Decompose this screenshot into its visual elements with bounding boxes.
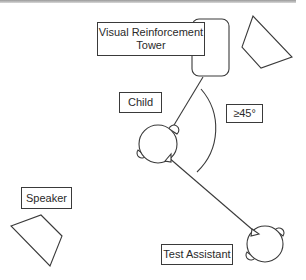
assistant-head-icon — [246, 226, 284, 262]
child-label: Child — [119, 92, 162, 113]
child-to-assistant-line — [168, 157, 254, 231]
left-speaker-shape — [11, 215, 62, 266]
child-head-icon — [137, 125, 179, 163]
test-assistant-label: Test Assistant — [161, 244, 233, 265]
angle-label: ≥45° — [226, 104, 263, 123]
right-speaker-shape — [242, 16, 292, 68]
tower-label: Visual Reinforcement Tower — [97, 22, 205, 56]
child-to-tower-line — [171, 77, 203, 130]
speaker-label: Speaker — [21, 187, 72, 209]
angle-arc — [197, 89, 216, 172]
